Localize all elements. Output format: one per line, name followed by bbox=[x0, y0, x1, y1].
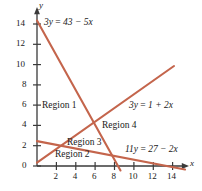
equation-3-rhs: 27 − 2x bbox=[148, 144, 178, 154]
y-axis-label: y bbox=[39, 1, 43, 10]
region-label-3: Region 3 bbox=[67, 138, 102, 148]
equation-1-eq: = bbox=[53, 17, 63, 27]
x-tick-label-2: 2 bbox=[53, 172, 58, 181]
y-tick-label-2: 2 bbox=[22, 141, 27, 150]
equation-2-rhs: 1 + 2x bbox=[148, 100, 173, 110]
graph-canvas bbox=[0, 0, 202, 191]
y-tick-label-14: 14 bbox=[16, 19, 25, 28]
x-tick-label-10: 10 bbox=[128, 172, 137, 181]
line-3y-43-5x bbox=[37, 21, 121, 171]
x-tick-label-6: 6 bbox=[92, 172, 97, 181]
region-label-4: Region 4 bbox=[102, 121, 137, 131]
region-label-1: Region 1 bbox=[42, 101, 77, 111]
y-tick-label-6: 6 bbox=[22, 100, 27, 109]
x-tick-label-8: 8 bbox=[112, 172, 117, 181]
x-tick-label-4: 4 bbox=[73, 172, 78, 181]
y-tick-label-10: 10 bbox=[16, 60, 25, 69]
equation-2-eq: = bbox=[138, 100, 148, 110]
y-tick-label-8: 8 bbox=[22, 80, 27, 89]
graph-figure: y x 0 2 4 6 8 10 12 14 2 4 6 8 10 12 14 … bbox=[0, 0, 202, 191]
x-tick-label-14: 14 bbox=[167, 172, 176, 181]
y-tick-label-12: 12 bbox=[16, 39, 25, 48]
equation-label-1: 3y = 43 − 5x bbox=[44, 18, 93, 28]
x-axis-label: x bbox=[190, 159, 194, 168]
equation-1-lhs: 3y bbox=[44, 17, 53, 27]
y-tick-label-0: 0 bbox=[22, 161, 27, 170]
equation-1-rhs: 43 − 5x bbox=[63, 17, 93, 27]
equation-3-lhs: 11y bbox=[125, 144, 138, 154]
equation-label-2: 3y = 1 + 2x bbox=[129, 101, 173, 111]
x-tick-label-12: 12 bbox=[148, 172, 157, 181]
region-label-2: Region 2 bbox=[55, 150, 90, 160]
equation-label-3: 11y = 27 − 2x bbox=[125, 145, 178, 155]
y-tick-label-4: 4 bbox=[22, 120, 27, 129]
equation-3-eq: = bbox=[138, 144, 148, 154]
equation-2-lhs: 3y bbox=[129, 100, 138, 110]
